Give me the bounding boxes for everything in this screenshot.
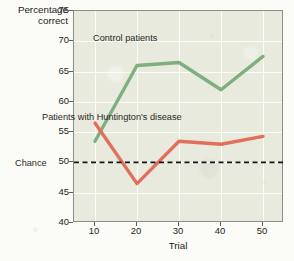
line-huntington-patients	[95, 123, 263, 184]
x-tick-label: 40	[207, 226, 233, 236]
y-tick-mark	[69, 222, 73, 223]
y-tick-label: 60	[51, 96, 69, 106]
chart-figure: Percentage correct 4045505560657075 1020…	[0, 0, 294, 261]
y-axis-title-line2: correct	[38, 15, 68, 26]
y-tick-label: 65	[51, 66, 69, 76]
x-tick-label: 10	[81, 226, 107, 236]
annotation-huntington-patients: Patients with Huntington's disease	[42, 112, 182, 122]
y-tick-label: 45	[51, 187, 69, 197]
annotation-chance: Chance	[15, 158, 47, 168]
y-tick-label: 50	[51, 157, 69, 167]
y-tick-label: 40	[51, 217, 69, 227]
x-tick-label: 30	[165, 226, 191, 236]
x-axis-title: Trial	[73, 240, 283, 251]
line-control-patients	[95, 56, 263, 141]
y-tick-label: 70	[51, 36, 69, 46]
y-tick-label: 55	[51, 126, 69, 136]
x-tick-label: 50	[249, 226, 275, 236]
y-tick-label: 75	[51, 5, 69, 15]
annotation-control-patients: Control patients	[93, 33, 157, 43]
x-tick-label: 20	[123, 226, 149, 236]
